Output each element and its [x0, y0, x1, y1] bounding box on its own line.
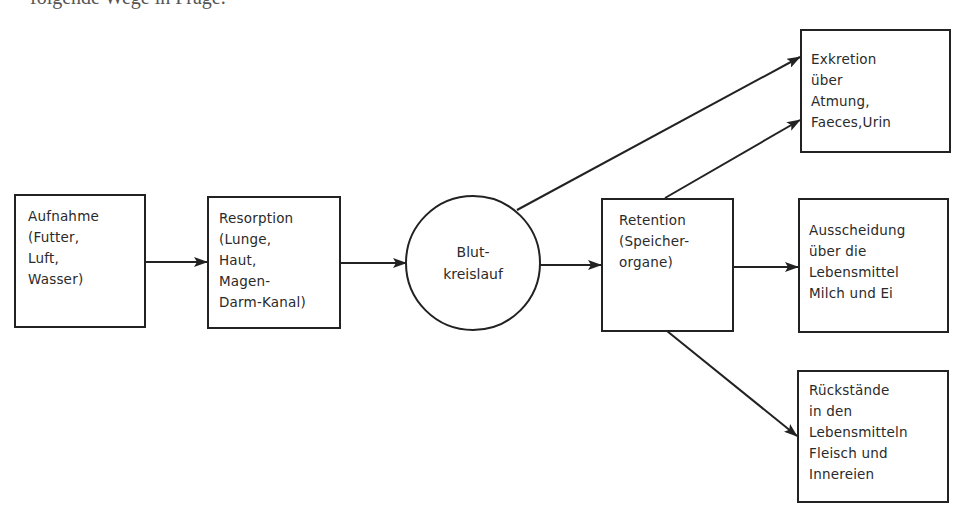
node-intake: Aufnahme (Futter, Luft, Wasser)	[14, 194, 146, 328]
node-retention-label: Retention (Speicher- organe)	[619, 210, 689, 273]
edge-circulation-excretion	[517, 57, 800, 210]
node-resorption: Resorption (Lunge, Haut, Magen- Darm-Kan…	[207, 196, 341, 329]
node-circulation-label: Blut- kreislauf	[443, 241, 503, 285]
node-residues-label: Rückstände in den Lebensmitteln Fleisch …	[809, 380, 908, 485]
node-excretion-label: Exkretion über Atmung, Faeces,Urin	[811, 49, 891, 133]
node-residues: Rückstände in den Lebensmitteln Fleisch …	[797, 370, 949, 503]
node-retention: Retention (Speicher- organe)	[601, 198, 734, 332]
edge-retention-residues	[667, 331, 797, 436]
node-resorption-label: Resorption (Lunge, Haut, Magen- Darm-Kan…	[219, 208, 306, 313]
node-secretion-label: Ausscheidung über die Lebensmittel Milch…	[809, 220, 906, 304]
node-circulation: Blut- kreislauf	[405, 195, 541, 331]
node-excretion: Exkretion über Atmung, Faeces,Urin	[800, 29, 951, 153]
edge-retention-excretion	[665, 120, 800, 198]
node-intake-label: Aufnahme (Futter, Luft, Wasser)	[28, 206, 99, 290]
node-secretion: Ausscheidung über die Lebensmittel Milch…	[798, 198, 949, 333]
